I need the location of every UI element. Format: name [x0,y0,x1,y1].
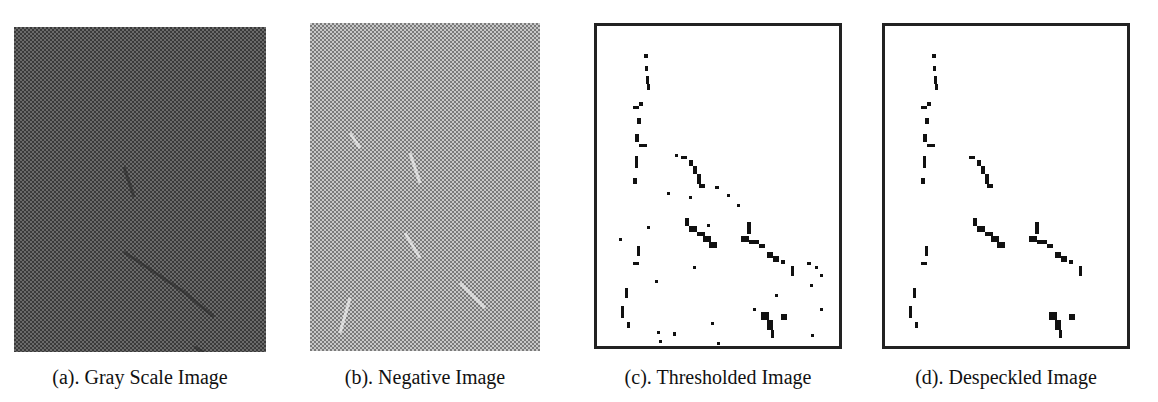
negative-image [310,23,540,351]
thresholded-image [594,23,842,349]
caption-a: (a). Gray Scale Image [14,366,266,389]
thresholded-crack-pixels [597,26,839,346]
despeckled-crack-pixels [885,26,1127,346]
faint-crack-overlay [310,23,540,351]
faint-crack-overlay [14,27,266,352]
gray-scale-image [14,27,266,352]
caption-b: (b). Negative Image [310,366,540,389]
caption-d: (d). Despeckled Image [882,366,1130,389]
despeckled-image [882,23,1130,349]
caption-c: (c). Thresholded Image [594,366,842,389]
